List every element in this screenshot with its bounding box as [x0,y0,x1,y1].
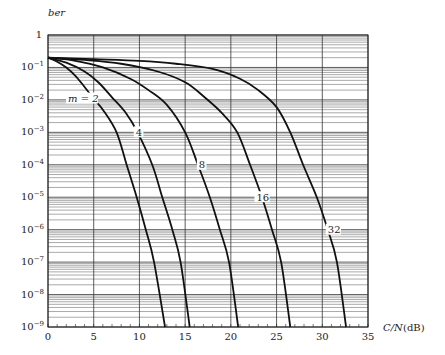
axes [48,35,368,327]
x-tick-label: 30 [316,331,329,342]
y-tick-label: 1 [36,29,42,40]
curve-m2 [48,58,165,327]
y-tick-label: 10−4 [21,158,45,170]
x-tick-label: 20 [224,331,237,342]
x-tick-label: 10 [133,331,146,342]
y-tick-label: 10−9 [21,320,44,332]
curve-labels: m = 2481632 [66,93,341,236]
curve-label: 8 [199,159,205,170]
x-axis-label: C/N (dB) [383,322,425,333]
y-tick-label: 10−7 [21,255,44,267]
plot-frame [48,35,368,327]
y-axis-label: ber [48,7,66,18]
x-tick-label: 25 [270,331,283,342]
curve-label: m = 2 [68,93,99,104]
y-tick-label: 10−3 [21,125,44,137]
curve-label: 4 [136,127,142,138]
ber-chart: 05101520253035110−110−210−310−410−510−61… [0,0,445,355]
y-tick-label: 10−5 [21,190,44,202]
minor-gridlines [48,36,368,317]
x-tick-label: 35 [362,331,375,342]
x-axis-label-main: C/N [383,322,404,333]
x-axis-label-unit: (dB) [403,322,425,333]
x-tick-label: 0 [45,331,51,342]
x-tick-label: 5 [91,331,97,342]
x-tick-label: 15 [179,331,192,342]
y-tick-label: 10−1 [21,60,44,72]
major-gridlines [48,35,368,327]
y-tick-label: 10−2 [21,93,44,105]
y-tick-label: 10−8 [21,288,44,300]
y-tick-label: 10−6 [21,223,45,235]
curve-label: 32 [328,224,341,235]
curve-label: 16 [256,192,269,203]
tick-labels: 05101520253035110−110−210−310−410−510−61… [21,29,374,342]
